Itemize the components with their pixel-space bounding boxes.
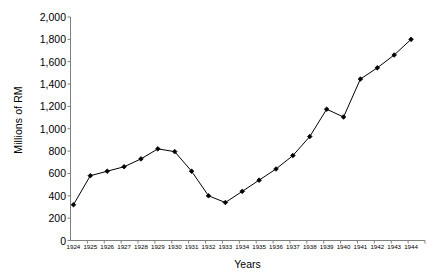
x-axis-tick-label: 1944: [399, 243, 423, 250]
x-axis-title: Years: [70, 258, 425, 270]
data-point-marker: [88, 173, 93, 178]
data-point-marker: [105, 169, 110, 174]
x-axis-title-label: Years: [234, 258, 260, 270]
plot-area: [0, 0, 434, 279]
data-line: [73, 39, 411, 204]
data-point-marker: [324, 107, 329, 112]
data-point-marker: [156, 147, 161, 152]
data-point-marker: [122, 164, 127, 169]
data-point-markers: [71, 37, 413, 207]
line-chart-figure: Millions of RM 2,0001,8001,6001,4001,200…: [0, 0, 434, 279]
data-point-marker: [139, 157, 144, 162]
data-point-marker: [71, 202, 76, 207]
axis-lines: [71, 17, 426, 241]
data-point-marker: [341, 115, 346, 120]
